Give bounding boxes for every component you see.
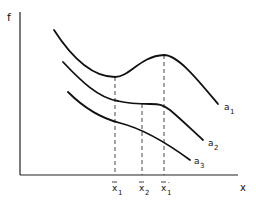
svg-text:a: a [194, 156, 200, 166]
svg-text:a: a [208, 138, 214, 148]
marker-label-x1: x 1 [112, 182, 122, 197]
curve-label-a1: a 1 [224, 102, 234, 116]
curve-a2 [63, 62, 203, 140]
marker-label-x1-prime: x 1 ′ [161, 181, 171, 197]
diagram-canvas: f x a 1 a 2 a 3 x 1 x 2 x 1 ′ [0, 0, 256, 200]
curve-a1 [54, 30, 218, 104]
svg-text:2: 2 [214, 144, 218, 152]
svg-text:′: ′ [168, 181, 170, 189]
svg-text:1: 1 [118, 189, 122, 197]
svg-text:1: 1 [230, 108, 234, 116]
svg-text:3: 3 [200, 162, 204, 170]
svg-text:1: 1 [167, 189, 171, 197]
marker-label-x2: x 2 [139, 182, 149, 197]
svg-text:2: 2 [145, 189, 149, 197]
curve-label-a3: a 3 [194, 156, 204, 170]
y-axis-label: f [7, 11, 12, 24]
curve-label-a2: a 2 [208, 138, 218, 152]
svg-text:a: a [224, 102, 230, 112]
x-axis-label: x [240, 182, 246, 193]
